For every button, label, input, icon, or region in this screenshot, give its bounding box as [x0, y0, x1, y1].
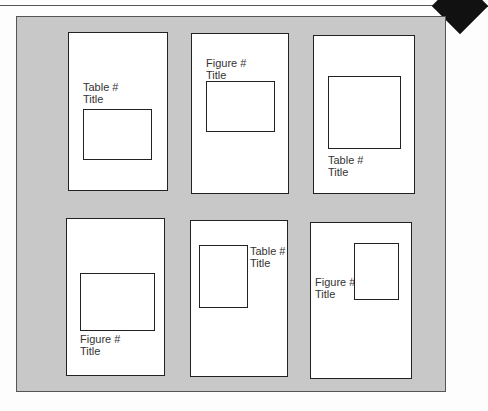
- page-1: Table # Title: [68, 32, 168, 191]
- page-2-caption: Figure # Title: [206, 57, 246, 81]
- caption-label: Figure #: [206, 57, 246, 69]
- page-6: Figure # Title: [310, 222, 412, 379]
- table-placeholder: [199, 245, 248, 308]
- caption-title: Title: [83, 93, 118, 105]
- caption-label: Figure #: [315, 276, 355, 288]
- page-4-caption: Figure # Title: [80, 333, 120, 357]
- caption-label: Figure #: [80, 333, 120, 345]
- page-6-caption: Figure # Title: [315, 276, 355, 300]
- caption-title: Title: [250, 257, 285, 269]
- caption-title: Title: [315, 288, 355, 300]
- header-rule: [0, 5, 445, 6]
- table-placeholder: [328, 76, 401, 149]
- figure-placeholder: [206, 81, 275, 132]
- figure-placeholder: [80, 273, 155, 331]
- caption-title: Title: [206, 69, 246, 81]
- page-1-caption: Table # Title: [83, 81, 118, 105]
- page-3-caption: Table # Title: [328, 154, 363, 178]
- caption-title: Title: [328, 166, 363, 178]
- figure-placeholder: [354, 243, 399, 300]
- page-4: Figure # Title: [66, 218, 165, 376]
- caption-label: Table #: [83, 81, 118, 93]
- page-5-caption: Table # Title: [250, 245, 285, 269]
- page-2: Figure # Title: [191, 33, 289, 194]
- table-placeholder: [83, 109, 152, 160]
- caption-title: Title: [80, 345, 120, 357]
- page-3: Table # Title: [313, 35, 415, 194]
- caption-label: Table #: [250, 245, 285, 257]
- caption-label: Table #: [328, 154, 363, 166]
- page-5: Table # Title: [190, 220, 288, 377]
